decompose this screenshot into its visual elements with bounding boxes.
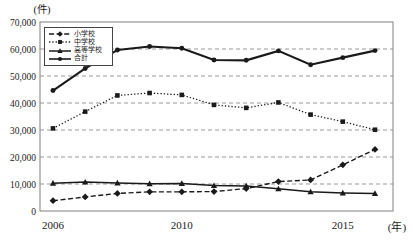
legend-item-3: 合計: [49, 55, 110, 63]
legend-label: 小学校: [74, 31, 95, 38]
legend: 小学校中学校高等学校合計: [44, 27, 113, 66]
square-marker: [212, 103, 217, 108]
legend-item-0: 小学校: [49, 30, 110, 38]
diamond-marker: [211, 188, 218, 195]
y-tick-label: 20,000: [10, 153, 36, 163]
x-axis-unit-label: (年): [381, 218, 413, 234]
square-marker: [373, 127, 378, 132]
circle-marker: [340, 55, 345, 60]
series-1: [51, 91, 378, 132]
square-marker: [83, 109, 88, 114]
series-0: [50, 146, 379, 204]
y-tick-label: 50,000: [10, 72, 36, 82]
square-marker: [308, 112, 313, 117]
circle-marker: [373, 48, 378, 53]
y-tick-label: 60,000: [10, 45, 36, 55]
legend-label: 合計: [74, 55, 88, 62]
diamond-marker: [146, 188, 153, 195]
circle-marker: [147, 44, 152, 49]
legend-line-sample: [49, 55, 71, 63]
circle-marker: [179, 46, 184, 51]
diamond-marker: [372, 146, 379, 153]
series-line: [53, 93, 375, 130]
diamond-marker: [82, 194, 89, 201]
diamond-marker: [57, 31, 63, 37]
line-chart: 010,00020,00030,00040,00050,00060,00070,…: [0, 0, 413, 241]
circle-marker: [212, 58, 217, 63]
legend-label: 中学校: [74, 39, 95, 46]
square-marker: [276, 100, 281, 105]
diamond-marker: [339, 161, 346, 168]
diamond-marker: [114, 190, 121, 197]
y-tick-label: 40,000: [10, 99, 36, 109]
square-marker: [115, 93, 120, 98]
diamond-marker: [307, 177, 314, 184]
x-tick-label: 2006: [42, 219, 65, 231]
square-marker: [51, 126, 56, 131]
diamond-marker: [178, 188, 185, 195]
square-marker: [58, 40, 62, 44]
y-tick-label: 70,000: [10, 18, 36, 28]
square-marker: [244, 106, 249, 111]
legend-line-sample: [49, 38, 71, 46]
x-tick-label: 2015: [332, 219, 355, 231]
legend-line-sample: [49, 47, 71, 55]
diamond-marker: [50, 197, 57, 204]
square-marker: [341, 119, 346, 124]
square-marker: [180, 93, 185, 98]
circle-marker: [276, 48, 281, 53]
y-tick-label: 0: [31, 207, 36, 217]
x-tick-label: 2010: [171, 219, 194, 231]
legend-line-sample: [49, 30, 71, 38]
circle-marker: [83, 66, 88, 71]
y-axis-unit-label: (件): [22, 1, 62, 16]
circle-marker: [308, 62, 313, 67]
y-tick-label: 10,000: [10, 180, 36, 190]
circle-marker: [244, 58, 249, 63]
circle-marker: [51, 88, 56, 93]
circle-marker: [58, 57, 62, 61]
circle-marker: [115, 48, 120, 53]
y-tick-label: 30,000: [10, 126, 36, 136]
square-marker: [147, 91, 152, 96]
